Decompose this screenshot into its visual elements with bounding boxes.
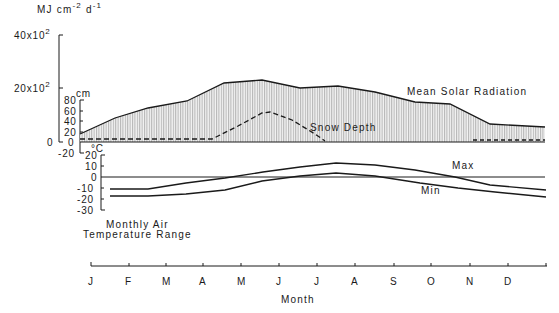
- x-axis-title: Month: [281, 294, 315, 305]
- snow-tick: -20: [58, 148, 75, 159]
- snow-tick: 40: [64, 116, 77, 127]
- month-label: O: [427, 276, 436, 287]
- month-label: S: [390, 276, 397, 287]
- climate-chart: MJ cm-2d-1 40x102 20x102 0 cm 80 60 40 2…: [0, 0, 559, 313]
- snow-axis: cm 80 60 40 20 0 -20: [58, 88, 91, 159]
- solar-tick-40: 40x102: [14, 27, 51, 41]
- snow-tick: 80: [64, 95, 77, 106]
- temp-tick: -20: [77, 194, 94, 205]
- solar-axis: MJ cm-2d-1 40x102 20x102 0: [14, 1, 102, 148]
- temp-tick: 20: [85, 150, 98, 161]
- solar-tick-20: 20x102: [14, 80, 51, 94]
- temp-title-line2: Temperature Range: [83, 229, 192, 240]
- month-label: A: [199, 276, 206, 287]
- temp-tick: 0: [91, 172, 97, 183]
- solar-tick-0: 0: [47, 137, 53, 148]
- month-label: J: [276, 276, 282, 287]
- month-label: M: [237, 276, 246, 287]
- month-label: N: [466, 276, 474, 287]
- temp-tick: -30: [77, 205, 94, 216]
- month-label: A: [351, 276, 358, 287]
- snow-depth-label: Snow Depth: [310, 122, 376, 133]
- snow-units-label: cm: [76, 88, 91, 99]
- solar-radiation-label: Mean Solar Radiation: [407, 86, 527, 97]
- solar-units-label: MJ cm-2d-1: [37, 1, 102, 15]
- month-label: J: [314, 276, 320, 287]
- min-label: Min: [421, 185, 441, 196]
- temp-tick: -10: [77, 183, 94, 194]
- month-label: J: [88, 276, 94, 287]
- month-label: D: [504, 276, 512, 287]
- temperature-axis: °C 20 10 0 -10 -20 -30: [77, 143, 105, 216]
- month-label: M: [162, 276, 171, 287]
- max-label: Max: [452, 160, 475, 171]
- snow-tick: 0: [68, 137, 74, 148]
- x-axis: J F M A M J J A S O N D Month: [88, 262, 547, 305]
- temp-tick: 10: [85, 161, 98, 172]
- month-label: F: [125, 276, 132, 287]
